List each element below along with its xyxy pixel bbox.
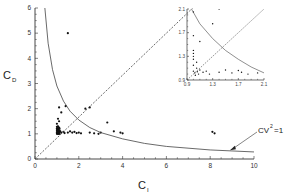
data-point [209,73,210,74]
x-tick-label: 0 [33,162,37,169]
data-point [71,131,73,133]
data-point [67,131,69,133]
y-axis-label: C [3,69,11,81]
y-axis-title: C D [3,69,17,83]
data-point [122,132,124,134]
x-tick-label: 8 [208,162,212,169]
x-tick-label: 2 [77,162,81,169]
data-point [193,70,194,71]
data-point [198,73,199,74]
data-point [225,69,226,70]
data-point [84,108,86,110]
x-tick-label: 6 [165,162,169,169]
data-point [213,132,215,134]
annotation-arrow [233,132,257,149]
data-point [89,131,91,133]
data-point [218,8,219,9]
data-point [76,132,78,134]
x-tick-label: 2.1 [261,82,268,87]
y-tick-label: 1.3 [179,54,186,59]
data-point [206,70,207,71]
y-tick-label: 2.1 [179,7,186,12]
y-tick-label: 1 [27,130,31,137]
data-point [212,23,213,24]
data-point [69,130,71,132]
y-tick-label: 5 [27,29,31,36]
annotation-suffix: =1 [274,126,284,135]
y-tick-label: 4 [27,55,31,62]
y-tick-label: 6 [27,4,31,11]
data-point [199,41,200,42]
data-point [231,72,232,73]
data-point [113,130,115,132]
x-tick-label: 10 [250,162,258,169]
y-tick-label: 3 [27,80,31,87]
inset-plot: 0.91.31.72.10.91.31.72.1 [179,7,268,87]
data-point [97,133,99,135]
data-point [193,35,194,36]
data-point [73,131,75,133]
data-point [247,73,248,74]
y-tick-label: 2 [27,105,31,112]
data-point [57,118,59,120]
x-axis-label-subscript: I [147,187,149,193]
x-axis-label: C [138,179,146,191]
x-tick-label: 0.9 [184,82,191,87]
data-point [193,65,194,66]
y-tick-label: 1.7 [179,30,186,35]
y-axis-label-subscript: D [12,77,17,83]
data-point [58,127,60,129]
data-point [197,71,198,72]
data-point [57,126,59,128]
data-point [78,131,80,133]
data-point [193,53,194,54]
cv-curve [191,9,264,73]
data-point [202,72,203,73]
cv-annotation: CV 2 =1 [258,123,284,135]
data-point [211,131,213,133]
data-point [67,32,69,34]
data-point [93,132,95,134]
data-point [257,72,258,73]
data-point [193,56,194,57]
data-point [218,72,219,73]
x-tick-label: 1.7 [235,82,242,87]
data-point [196,67,197,68]
data-point [58,106,60,108]
data-point [56,123,58,125]
main-plot: 01234560246810 [27,4,258,169]
annotation-text: CV [258,126,270,135]
data-point [58,120,60,122]
data-point [60,111,62,113]
annotation-superscript: 2 [270,123,273,129]
data-point [241,72,242,73]
data-point [238,70,239,71]
data-point [195,75,196,76]
data-point [80,132,82,134]
x-tick-label: 1.3 [209,82,216,87]
scatter-chart: 01234560246810 0.91.31.72.10.91.31.72.1 … [0,0,296,194]
y-tick-label: 0 [27,155,31,162]
data-point [119,131,121,133]
x-axis-title: C I [138,179,149,193]
x-tick-label: 4 [121,162,125,169]
data-point [196,62,197,63]
arrowhead-icon [230,146,236,151]
data-point [63,132,65,134]
data-point [193,59,194,60]
data-point [106,121,108,123]
data-point [193,50,194,51]
data-point [199,69,200,70]
